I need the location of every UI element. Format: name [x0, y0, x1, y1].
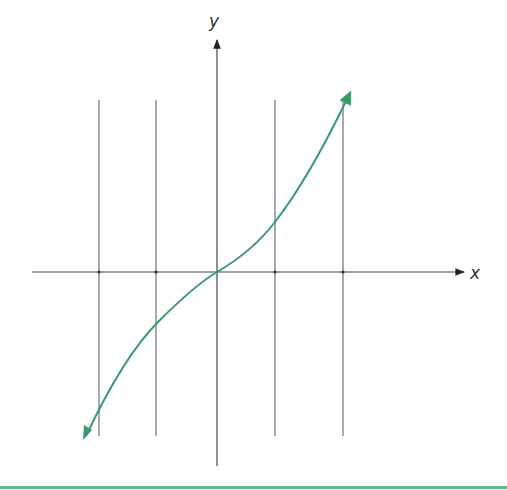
- y-axis-label: y: [208, 11, 220, 31]
- function-curve: [86, 93, 350, 436]
- vertical-lines: [99, 100, 343, 436]
- x-axis-label: x: [469, 263, 481, 283]
- function-graph: y x: [0, 0, 507, 490]
- footer-rule: [0, 486, 507, 489]
